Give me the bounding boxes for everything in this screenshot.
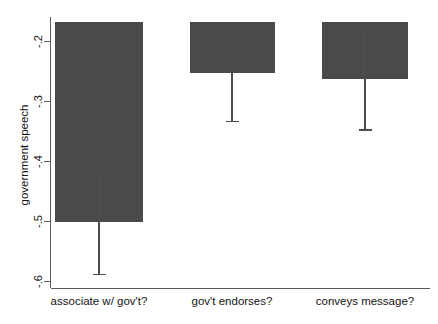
x-tick-label-conveys-message: conveys message? (316, 295, 414, 307)
x-tick-label-associate-w-govt: associate w/ gov't? (51, 295, 148, 307)
y-tick-label-2: -.4 (32, 155, 44, 168)
y-tick-label-4: -.6 (32, 275, 44, 288)
bar-chart-figure: -.2 -.3 -.4 -.5 -.6 government speech as… (0, 0, 438, 324)
x-tick-label-govt-endorses: gov't endorses? (192, 295, 273, 307)
x-axis-tick-labels: associate w/ gov't? gov't endorses? conv… (51, 295, 415, 307)
chart-canvas: -.2 -.3 -.4 -.5 -.6 government speech as… (0, 0, 438, 324)
y-tick-label-3: -.5 (32, 215, 44, 228)
y-tick-label-0: -.2 (32, 35, 44, 48)
y-axis-title: government speech (18, 104, 30, 205)
y-tick-label-1: -.3 (32, 95, 44, 108)
